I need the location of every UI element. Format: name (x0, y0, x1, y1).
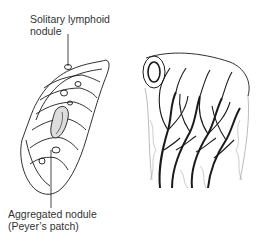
villus-lacteal-network (143, 53, 249, 188)
illustration (0, 0, 263, 245)
intestinal-wall-cutaway (21, 60, 109, 194)
